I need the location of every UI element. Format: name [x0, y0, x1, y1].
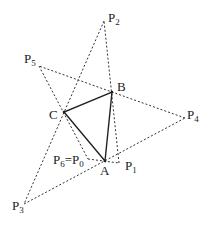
label-p3-sub: 3: [19, 205, 24, 215]
label-c: C: [49, 108, 58, 121]
vertex-b-dot: [111, 91, 114, 94]
diagram-canvas: P2 P5 B C P4 P6=P0 A P1 P3: [0, 0, 207, 226]
label-p6-equals-p0: P6=P0: [53, 153, 84, 169]
label-a: A: [100, 164, 109, 177]
label-b-base: B: [117, 79, 126, 94]
vertex-c-dot: [63, 111, 66, 114]
label-p4: P4: [187, 108, 199, 124]
label-p2: P2: [108, 11, 120, 27]
label-p2-sub: 2: [115, 17, 120, 27]
label-a-base: A: [100, 163, 109, 178]
label-equals: =: [65, 152, 72, 167]
label-p3: P3: [12, 199, 24, 215]
vertex-a-dot: [104, 160, 107, 163]
label-p1: P1: [125, 159, 137, 175]
label-p4-sub: 4: [194, 114, 199, 124]
diagram-svg: [0, 0, 207, 226]
label-b: B: [117, 80, 126, 93]
label-p5: P5: [24, 52, 36, 68]
label-c-base: C: [49, 107, 58, 122]
label-p5-sub: 5: [31, 58, 36, 68]
label-p1-sub: 1: [132, 165, 137, 175]
label-p0-sub: 0: [79, 159, 84, 169]
